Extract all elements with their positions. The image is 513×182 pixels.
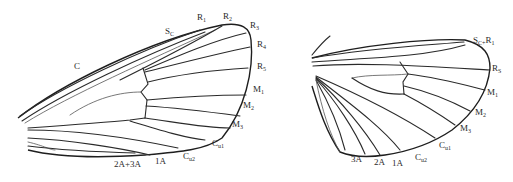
hindwing-label-1a: 1A	[392, 159, 403, 168]
forewing-label-r1: R1	[197, 13, 206, 23]
hindwing-label-3a: 3A	[351, 155, 362, 164]
forewing-label-2a3a: 2A+3A	[114, 160, 141, 169]
hindwing-label-cu2: Cu2	[415, 153, 427, 163]
forewing-label-1a: 1A	[155, 157, 166, 166]
forewing-label-m3: M3	[232, 120, 243, 130]
forewing-label-c: C	[74, 62, 80, 71]
hindwing-label-rs: RS	[492, 64, 501, 74]
hindwing	[312, 36, 490, 156]
forewing-label-m2: M2	[243, 101, 254, 111]
hindwing-outline	[312, 40, 490, 157]
hindwing-label-m1: M1	[487, 88, 498, 98]
hindwing-label-2a: 2A	[374, 158, 385, 167]
forewing-label-cu1: Cu1	[212, 139, 224, 149]
forewing-label-sc: SC	[165, 27, 174, 37]
forewing-label-r2: R2	[223, 12, 232, 22]
hindwing-label-sc-r1: SC+R1	[473, 36, 494, 46]
forewing-label-r4: R4	[257, 40, 266, 50]
hindwing-label-m2: M2	[475, 108, 486, 118]
hindwing-label-m3: M3	[460, 124, 471, 134]
hindwing-label-cu1: Cu1	[439, 141, 451, 151]
forewing-label-m1: M1	[253, 85, 264, 95]
forewing-outline	[18, 24, 252, 157]
forewing-label-cu2: Cu2	[183, 152, 195, 162]
forewing	[18, 24, 252, 157]
forewing-label-r5: R5	[257, 62, 266, 72]
forewing-label-r3: R3	[250, 21, 259, 31]
